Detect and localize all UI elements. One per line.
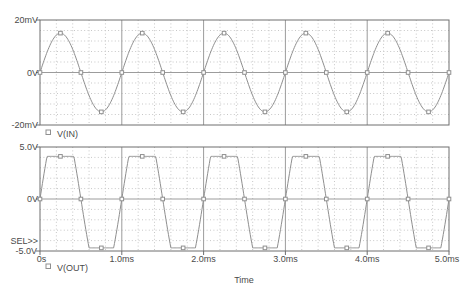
vin-ytick-top: 20mV xyxy=(14,15,38,25)
plot-vout[interactable]: 5.0V 0V SEL>> -5.0V xyxy=(10,142,450,256)
x-tick-label: 4.0ms xyxy=(355,254,380,264)
probe-waveform-window: 20mV 0V -20mV V(IN) 5.0V 0V SEL>> -5.0V … xyxy=(0,0,464,298)
x-tick-label: 1.0ms xyxy=(110,254,135,264)
legend-vout[interactable]: V(OUT) xyxy=(46,263,88,273)
legend-vin[interactable]: V(IN) xyxy=(46,129,78,139)
x-tick-label: 5.0ms xyxy=(435,254,460,264)
x-tick-label: 2.0ms xyxy=(191,254,216,264)
time-axis-title: Time xyxy=(234,275,254,285)
vout-ytick-top: 5.0V xyxy=(19,142,38,152)
vout-trace[interactable] xyxy=(38,155,451,250)
vout-ytick-bottom: -5.0V xyxy=(15,246,37,256)
time-axis: 0s 1.0ms 2.0ms 3.0ms 4.0ms 5.0ms Time xyxy=(37,254,460,285)
legend-vin-label: V(IN) xyxy=(57,129,78,139)
sel-indicator: SEL>> xyxy=(10,236,38,246)
x-tick-label: 3.0ms xyxy=(273,254,298,264)
vin-ytick-zero: 0V xyxy=(27,68,38,78)
vin-ytick-bottom: -20mV xyxy=(11,120,38,130)
trace-symbol-icon xyxy=(46,130,51,135)
legend-vout-label: V(OUT) xyxy=(57,263,88,273)
x-tick-label: 0s xyxy=(37,254,47,264)
waveform-canvas: 20mV 0V -20mV V(IN) 5.0V 0V SEL>> -5.0V … xyxy=(0,0,464,298)
vout-ytick-zero: 0V xyxy=(27,194,38,204)
trace-symbol-icon xyxy=(46,264,51,269)
plot-vin[interactable]: 20mV 0V -20mV xyxy=(11,15,450,130)
